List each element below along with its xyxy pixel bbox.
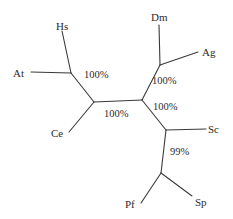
branch-ag bbox=[160, 52, 198, 65]
branch-dm bbox=[159, 25, 160, 65]
taxon-label-dm: Dm bbox=[151, 12, 168, 23]
branch-ce bbox=[69, 102, 94, 132]
taxon-label-hs: Hs bbox=[56, 21, 68, 32]
branch-at bbox=[31, 72, 71, 73]
support-backbone: 100% bbox=[104, 109, 129, 120]
taxon-label-ce: Ce bbox=[51, 128, 63, 139]
support-pf-sp: 99% bbox=[170, 147, 189, 158]
branch-backbone bbox=[94, 100, 142, 102]
branch-sp bbox=[161, 173, 192, 196]
support-fungi: 100% bbox=[153, 102, 178, 113]
branch-scnode-pfsp bbox=[161, 130, 166, 173]
branch-hs bbox=[62, 31, 71, 73]
phylogenetic-tree-figure: HsAtCeDmAgScPfSp 100%100%100%100%99% bbox=[0, 0, 233, 219]
branch-sc bbox=[166, 129, 206, 130]
taxon-label-ag: Ag bbox=[202, 47, 215, 58]
taxon-label-sc: Sc bbox=[208, 124, 219, 135]
branch-pf bbox=[141, 173, 161, 203]
taxon-label-sp: Sp bbox=[195, 197, 207, 208]
taxon-label-at: At bbox=[13, 68, 24, 79]
support-dm-ag: 100% bbox=[152, 76, 177, 87]
support-hs-at: 100% bbox=[84, 70, 109, 81]
taxon-label-pf: Pf bbox=[125, 199, 135, 210]
